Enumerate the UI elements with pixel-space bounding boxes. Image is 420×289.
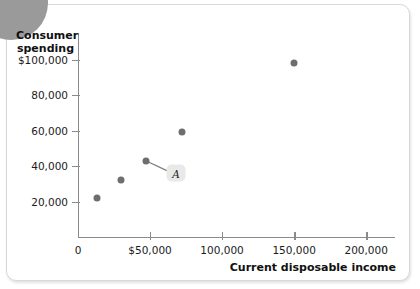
y-axis-title: Consumer spending bbox=[16, 30, 74, 55]
x-axis-title: Current disposable income bbox=[230, 261, 396, 274]
y-tick-label: 80,000 bbox=[31, 89, 68, 101]
y-tick-mark bbox=[72, 60, 80, 61]
y-tick-mark bbox=[72, 202, 80, 203]
y-axis-line bbox=[78, 33, 79, 238]
scatter-plot: 20,00040,00060,00080,000$100,000 0$50,00… bbox=[0, 0, 420, 289]
x-tick-mark bbox=[150, 232, 151, 240]
data-point bbox=[93, 194, 100, 201]
x-tick-mark bbox=[366, 232, 367, 240]
data-point bbox=[291, 60, 298, 67]
data-point bbox=[118, 177, 125, 184]
chart-figure: 20,00040,00060,00080,000$100,000 0$50,00… bbox=[0, 0, 420, 289]
x-tick-label: 150,000 bbox=[272, 244, 315, 256]
y-tick-mark bbox=[72, 95, 80, 96]
data-point bbox=[142, 157, 149, 164]
y-tick-label: 60,000 bbox=[31, 125, 68, 137]
x-tick-label: 100,000 bbox=[200, 244, 243, 256]
x-axis-line bbox=[78, 237, 395, 238]
annotation-badge-a: A bbox=[166, 165, 185, 182]
data-point bbox=[178, 129, 185, 136]
x-tick-mark bbox=[222, 232, 223, 240]
x-tick-label: 200,000 bbox=[344, 244, 387, 256]
x-tick-label: 0 bbox=[75, 244, 82, 256]
y-tick-label: $100,000 bbox=[18, 54, 68, 66]
y-tick-mark bbox=[72, 131, 80, 132]
x-tick-mark bbox=[294, 232, 295, 240]
y-tick-label: 40,000 bbox=[31, 160, 68, 172]
y-tick-label: 20,000 bbox=[31, 196, 68, 208]
x-tick-label: $50,000 bbox=[128, 244, 171, 256]
y-tick-mark bbox=[72, 166, 80, 167]
annotation-leader-line bbox=[146, 161, 168, 171]
